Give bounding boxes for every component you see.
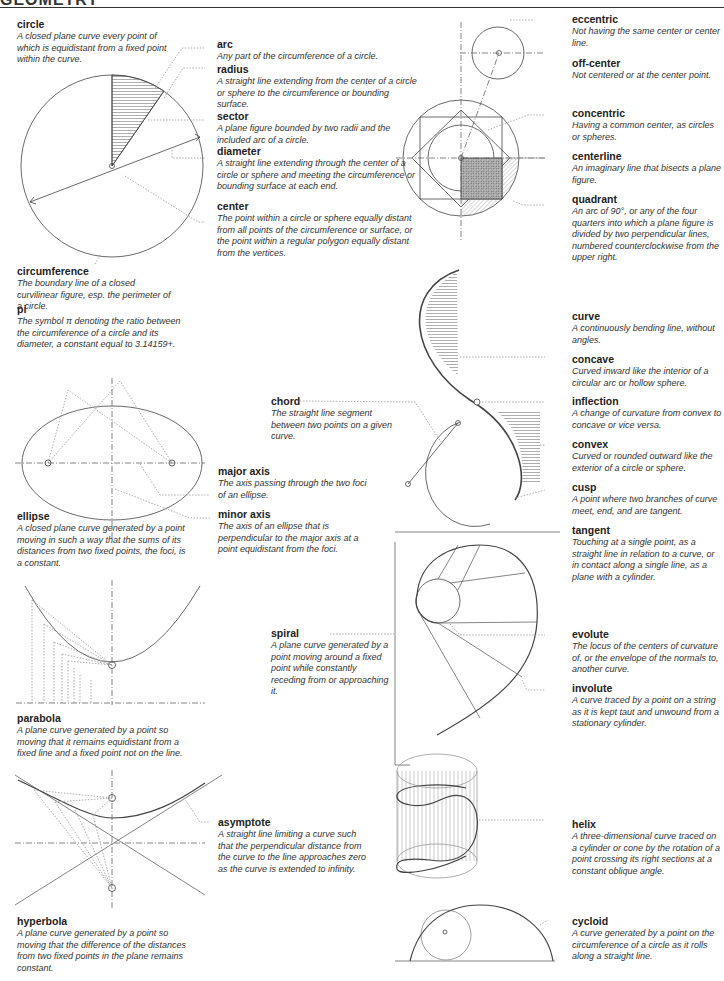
term-title: cusp	[572, 481, 722, 494]
term-cusp: cusp A point where two branches of curve…	[572, 481, 722, 517]
term-title: cycloid	[572, 915, 722, 928]
term-title: diameter	[217, 145, 417, 158]
term-arc: arc Any part of the circumference of a c…	[217, 38, 417, 63]
term-title: centerline	[572, 150, 722, 163]
term-title: sector	[217, 110, 417, 123]
term-ellipse: ellipse A closed plane curve generated b…	[17, 510, 192, 569]
term-diameter: diameter A straight line extending throu…	[217, 145, 417, 193]
term-radius: radius A straight line extending from th…	[217, 63, 417, 111]
term-helix: helix A three-dimensional curve traced o…	[572, 818, 722, 877]
term-major-axis: major axis The axis passing through the …	[218, 465, 368, 501]
term-title: quadrant	[572, 193, 722, 206]
term-title: inflection	[572, 395, 722, 408]
term-center: center The point within a circle or sphe…	[217, 200, 417, 259]
concentric-diagram	[396, 20, 545, 240]
term-title: major axis	[218, 465, 368, 478]
term-definition: A plane curve generated by a point movin…	[271, 640, 391, 698]
term-definition: The locus of the centers of curvature of…	[572, 641, 722, 676]
term-title: curve	[572, 310, 722, 323]
term-definition: A continuously bending line, without ang…	[572, 323, 722, 346]
curve-diagram	[420, 270, 545, 500]
term-definition: A plane curve generated by a point so mo…	[17, 928, 197, 974]
term-eccentric: eccentric Not having the same center or …	[572, 13, 722, 49]
term-definition: A change of curvature from convex to con…	[572, 408, 722, 431]
term-evolute: evolute The locus of the centers of curv…	[572, 628, 722, 676]
term-definition: An arc of 90°, or any of the four quarte…	[572, 206, 722, 264]
term-concave: concave Curved inward like the interior …	[572, 353, 722, 389]
term-title: evolute	[572, 628, 722, 641]
term-title: concave	[572, 353, 722, 366]
term-definition: A closed plane curve every point of whic…	[17, 31, 167, 66]
term-definition: A curve traced by a point on a string as…	[572, 695, 722, 730]
term-title: circle	[17, 18, 167, 31]
term-definition: A three-dimensional curve traced on a cy…	[572, 831, 722, 877]
term-title: ellipse	[17, 510, 192, 523]
term-title: center	[217, 200, 417, 213]
term-title: concentric	[572, 107, 722, 120]
term-definition: The symbol π denoting the ratio between …	[17, 316, 182, 351]
term-title: involute	[572, 682, 722, 695]
term-parabola: parabola A plane curve generated by a po…	[17, 712, 192, 760]
term-definition: Any part of the circumference of a circl…	[217, 51, 417, 63]
term-definition: A plane curve generated by a point so mo…	[17, 725, 192, 760]
term-hyperbola: hyperbola A plane curve generated by a p…	[17, 915, 197, 974]
term-pi: pi The symbol π denoting the ratio betwe…	[17, 303, 182, 351]
term-title: arc	[217, 38, 417, 51]
term-definition: A straight line extending through the ce…	[217, 158, 417, 193]
term-definition: A straight line limiting a curve such th…	[218, 829, 373, 875]
term-definition: An imaginary line that bisects a plane f…	[572, 163, 722, 186]
term-quadrant: quadrant An arc of 90°, or any of the fo…	[572, 193, 722, 264]
term-tangent: tangent Touching at a single point, as a…	[572, 524, 722, 583]
term-inflection: inflection A change of curvature from co…	[572, 395, 722, 431]
term-cycloid: cycloid A curve generated by a point on …	[572, 915, 722, 963]
term-title: helix	[572, 818, 722, 831]
term-definition: A point where two branches of curve meet…	[572, 494, 722, 517]
term-convex: convex Curved or rounded outward like th…	[572, 438, 722, 474]
term-chord: chord The straight line segment between …	[271, 395, 401, 443]
term-title: chord	[271, 395, 401, 408]
term-sector: sector A plane figure bounded by two rad…	[217, 110, 417, 146]
term-title: hyperbola	[17, 915, 197, 928]
circle-diagram	[21, 48, 205, 264]
term-title: tangent	[572, 524, 722, 537]
term-title: eccentric	[572, 13, 722, 26]
term-definition: Curved or rounded outward like the exter…	[572, 451, 722, 474]
term-involute: involute A curve traced by a point on a …	[572, 682, 722, 730]
term-asymptote: asymptote A straight line limiting a cur…	[218, 816, 373, 875]
term-title: asymptote	[218, 816, 373, 829]
term-definition: The point within a circle or sphere equa…	[217, 213, 417, 259]
term-centerline: centerline An imaginary line that bisect…	[572, 150, 722, 186]
term-definition: The straight line segment between two po…	[271, 408, 401, 443]
term-definition: Having a common center, as circles or sp…	[572, 120, 722, 143]
term-definition: Not centered or at the center point.	[572, 70, 722, 82]
parabola-diagram	[16, 580, 205, 705]
cycloid-diagram	[395, 905, 555, 961]
term-off-center: off-center Not centered or at the center…	[572, 57, 722, 82]
term-title: pi	[17, 303, 182, 316]
term-definition: A closed plane curve generated by a poin…	[17, 523, 192, 569]
term-title: parabola	[17, 712, 192, 725]
term-minor-axis: minor axis The axis of an ellipse that i…	[218, 508, 368, 556]
term-title: spiral	[271, 627, 391, 640]
term-spiral: spiral A plane curve generated by a poin…	[271, 627, 391, 698]
term-definition: Not having the same center or center lin…	[572, 26, 722, 49]
term-definition: The axis passing through the two foci of…	[218, 478, 368, 501]
helix-diagram	[397, 754, 545, 878]
term-title: circumference	[17, 265, 177, 278]
term-definition: A plane figure bounded by two radii and …	[217, 123, 417, 146]
term-definition: The axis of an ellipse that is perpendic…	[218, 521, 368, 556]
term-title: off-center	[572, 57, 722, 70]
term-concentric: concentric Having a common center, as ci…	[572, 107, 722, 143]
term-curve: curve A continuously bending line, witho…	[572, 310, 722, 346]
term-title: radius	[217, 63, 417, 76]
term-definition: Curved inward like the interior of a cir…	[572, 366, 722, 389]
term-definition: A straight line extending from the cente…	[217, 76, 417, 111]
term-circle: circle A closed plane curve every point …	[17, 18, 167, 66]
term-definition: Touching at a single point, as a straigh…	[572, 537, 722, 583]
term-title: minor axis	[218, 508, 368, 521]
term-title: convex	[572, 438, 722, 451]
hyperbola-diagram	[15, 770, 222, 910]
term-definition: A curve generated by a point on the circ…	[572, 928, 722, 963]
